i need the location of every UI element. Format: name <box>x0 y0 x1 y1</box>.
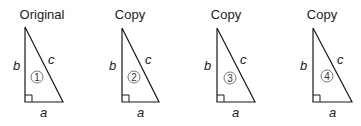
right-triangle-shape <box>217 28 255 102</box>
side-c-label: c <box>48 52 55 67</box>
right-angle-marker <box>313 95 320 102</box>
right-angle-marker <box>122 95 129 102</box>
right-triangle-shape <box>122 28 159 102</box>
triangle-title: Copy <box>307 7 338 22</box>
side-a-label: a <box>40 105 47 120</box>
triangle-title: Copy <box>115 7 146 22</box>
triangle-number: 4 <box>324 71 330 82</box>
triangle-copy-2: Copy b c a 2 <box>109 7 159 120</box>
side-c-label: c <box>337 52 344 67</box>
side-c-label: c <box>240 52 247 67</box>
right-angle-marker <box>25 95 32 102</box>
side-a-label: a <box>329 105 336 120</box>
right-angle-marker <box>217 95 224 102</box>
right-triangle-shape <box>25 27 63 102</box>
triangle-copy-3: Copy b c a 3 <box>204 7 255 120</box>
triangle-title: Original <box>20 7 65 22</box>
side-a-label: a <box>232 105 239 120</box>
side-c-label: c <box>145 52 152 67</box>
right-triangle-shape <box>313 28 352 102</box>
triangle-number: 3 <box>227 73 233 84</box>
triangle-original: Original b c a 1 <box>13 7 65 120</box>
triangle-copy-4: Copy b c a 4 <box>300 7 352 120</box>
triangle-number: 2 <box>131 72 137 83</box>
triangle-copies-diagram: Original b c a 1 Copy b c a 2 Copy b c a… <box>0 0 361 126</box>
side-b-label: b <box>300 58 307 73</box>
side-b-label: b <box>109 58 116 73</box>
triangle-title: Copy <box>211 7 242 22</box>
side-a-label: a <box>137 105 144 120</box>
triangle-number: 1 <box>34 72 40 83</box>
side-b-label: b <box>204 58 211 73</box>
side-b-label: b <box>13 58 20 73</box>
